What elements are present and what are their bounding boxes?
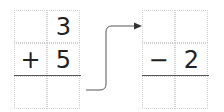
right-answer-cell-ones[interactable] <box>175 76 208 109</box>
right-subtraction-grid: − 2 <box>142 10 209 109</box>
right-input-cell-ones[interactable] <box>175 10 208 43</box>
right-input-cell-tens[interactable] <box>142 10 175 43</box>
right-cell-r1c1: 2 <box>175 43 208 76</box>
right-difference-line <box>142 75 209 76</box>
right-cell-r1c0: − <box>142 43 175 76</box>
right-answer-cell-tens[interactable] <box>142 76 175 109</box>
